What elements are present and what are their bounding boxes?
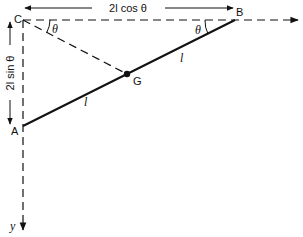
theta-label-B: θ xyxy=(195,23,201,37)
point-label-B: B xyxy=(236,6,243,18)
angle-arc-B xyxy=(205,20,208,34)
point-label-A: A xyxy=(11,125,19,137)
vertical-dimension-label: 2l sin θ xyxy=(4,56,16,91)
segment-label-GB: l xyxy=(180,51,184,65)
point-label-C: C xyxy=(14,13,22,25)
theta-label-C: θ xyxy=(52,22,58,36)
center-of-mass-dot xyxy=(124,71,130,77)
dashed-line-CG xyxy=(23,20,127,74)
segment-label-AG: l xyxy=(84,95,88,109)
point-label-G: G xyxy=(133,75,142,87)
ladder-diagram: 2l cos θ 2l sin θ θ θ C B A G l l y xyxy=(0,0,303,237)
angle-arc-C xyxy=(47,20,50,32)
horizontal-dimension-label: 2l cos θ xyxy=(109,2,147,14)
y-axis-label: y xyxy=(9,219,16,233)
